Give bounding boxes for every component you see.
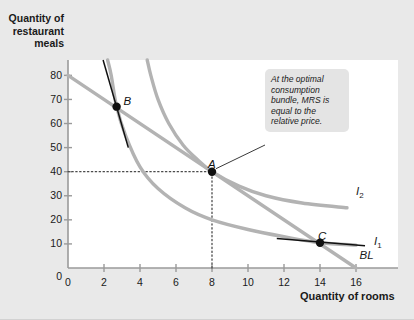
x-tick-label: 4 (130, 276, 150, 288)
economics-figure: Quantity of restaurant meals Quantity of… (0, 0, 414, 320)
x-tick-label: 12 (274, 276, 294, 288)
y-tick-label: 50 (36, 141, 62, 153)
y-tick-label: 20 (36, 213, 62, 225)
curve-label-BL: BL (360, 249, 374, 261)
annotation-callout: At the optimal consumption bundle, MRS i… (265, 69, 349, 132)
x-tick-label: 16 (346, 276, 366, 288)
data-point-B (112, 102, 120, 110)
y-tick-label: 40 (36, 165, 62, 177)
point-label-B: B (124, 95, 132, 107)
x-tick-label: 14 (310, 276, 330, 288)
point-label-A: A (208, 158, 216, 170)
x-tick-label: 8 (202, 276, 222, 288)
point-label-C: C (318, 230, 326, 242)
y-tick-label: 70 (36, 93, 62, 105)
y-tick-label: 10 (36, 237, 62, 249)
x-tick-label: 6 (166, 276, 186, 288)
x-axis-title: Quantity of rooms (300, 290, 395, 302)
y-tick-label: 60 (36, 117, 62, 129)
x-tick-label: 2 (94, 276, 114, 288)
chart-canvas (0, 0, 414, 320)
x-tick-label: 10 (238, 276, 258, 288)
curve-label-I2: I2 (356, 185, 364, 200)
curve-label-I1: I1 (374, 235, 382, 250)
annotation-pointer-line (216, 145, 265, 169)
x-tick-label: 0 (58, 276, 78, 288)
y-tick-label: 80 (36, 69, 62, 81)
y-tick-label: 30 (36, 189, 62, 201)
